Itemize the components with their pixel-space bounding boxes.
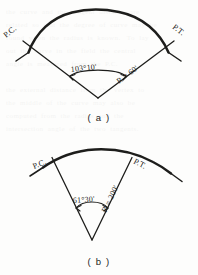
- figure-a-pt-label: P.T.: [171, 22, 187, 37]
- figure-b-angle-arc-tick-left: [76, 206, 81, 212]
- figure-b-group: P.C. P.T. 61°30' R = 200' ( b ): [30, 149, 182, 267]
- figure-a-angle-label: 103°10': [70, 62, 97, 74]
- curve-figures-svg: P.C. P.T. 103°10' R = 60' ( a ): [0, 0, 198, 275]
- figure-a-pc-label: P.C.: [2, 24, 19, 40]
- figure-a-group: P.C. P.T. 103°10' R = 60' ( a ): [2, 10, 187, 123]
- figure-b-angle-label: 61°30': [73, 194, 96, 205]
- figure-b-curve-arc: [43, 149, 171, 173]
- figure-b-radius-label: R = 200': [100, 184, 121, 214]
- figure-a-back-tangent: [16, 53, 29, 62]
- figure-a-radius-label: R = 60': [115, 63, 140, 85]
- figure-b-pc-label: P.C.: [31, 157, 47, 171]
- figure-b-caption: ( b ): [88, 256, 111, 267]
- figure-page: the curve and the tangent distance are r…: [0, 0, 198, 275]
- figure-a-caption: ( a ): [88, 112, 111, 123]
- figure-b-forward-tangent: [171, 174, 182, 182]
- figure-a-forward-tangent: [169, 53, 182, 62]
- figure-a-curve-arc: [29, 10, 169, 53]
